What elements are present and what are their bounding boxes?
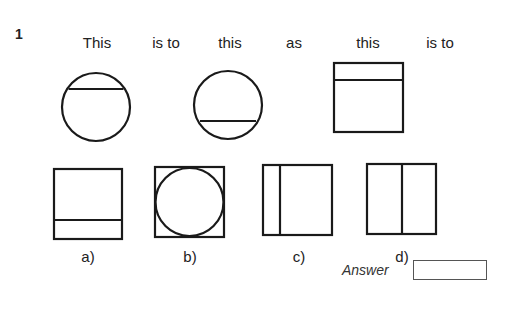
option-b-figure[interactable] xyxy=(155,167,224,237)
option-a-label: a) xyxy=(68,248,108,265)
figure-circle-top-chord xyxy=(62,73,130,141)
figure-square-top-band xyxy=(334,63,403,132)
answer-label: Answer xyxy=(342,262,389,278)
figure-circle-bottom-chord xyxy=(194,71,262,139)
option-a-figure[interactable] xyxy=(54,169,122,239)
option-d-figure[interactable] xyxy=(367,164,436,234)
option-c-figure[interactable] xyxy=(263,165,332,235)
option-c-label: c) xyxy=(279,248,319,265)
option-b-label: b) xyxy=(170,248,210,265)
answer-input-box[interactable] xyxy=(413,260,487,280)
